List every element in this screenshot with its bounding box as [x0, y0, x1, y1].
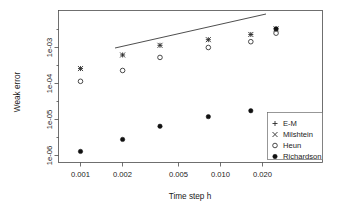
point-heun-0 — [78, 79, 83, 84]
y-axis-title: Weak error — [13, 72, 22, 113]
y-tick-label-1e-04: 1e-04 — [45, 74, 54, 93]
point-heun-1 — [120, 68, 125, 73]
point-richardson-1 — [120, 137, 124, 141]
point-heun-3 — [206, 45, 211, 50]
legend: E-M Milshtein Heun Richardson — [268, 113, 323, 161]
y-tick-label-1e-06: 1e-06 — [45, 146, 54, 165]
point-heun-5 — [274, 31, 279, 36]
point-richardson-4 — [249, 109, 253, 113]
point-richardson-0 — [78, 149, 82, 153]
y-axis-ticks — [55, 30, 59, 156]
legend-label-milshtein: Milshtein — [283, 130, 313, 139]
legend-label-e-m: E-M — [283, 119, 297, 128]
x-axis-ticks — [81, 163, 263, 167]
legend-marker-richardson — [273, 154, 277, 158]
x-tick-label-0.010: 0.010 — [211, 170, 230, 179]
point-heun-2 — [158, 55, 163, 60]
x-tick-label-0.001: 0.001 — [71, 170, 90, 179]
y-tick-label-1e-05: 1e-05 — [45, 110, 54, 129]
legend-label-richardson: Richardson — [283, 152, 321, 161]
y-tick-label-1e-03: 1e-03 — [45, 38, 54, 57]
point-richardson-2 — [158, 124, 162, 128]
x-tick-label-0.020: 0.020 — [253, 170, 272, 179]
weak-error-convergence-plot: 1e-03 1e-04 1e-05 1e-06 Weak error 0.001… — [0, 0, 341, 211]
x-axis-title: Time step h — [169, 192, 212, 201]
data-markers — [78, 26, 279, 153]
point-richardson-3 — [206, 114, 210, 118]
chart-container: 1e-03 1e-04 1e-05 1e-06 Weak error 0.001… — [0, 0, 341, 211]
reference-slope-line — [115, 14, 266, 48]
point-heun-4 — [249, 39, 254, 44]
point-richardson-5 — [274, 27, 278, 31]
legend-label-heun: Heun — [283, 141, 301, 150]
x-tick-label-0.002: 0.002 — [113, 170, 132, 179]
x-tick-label-0.005: 0.005 — [169, 170, 188, 179]
